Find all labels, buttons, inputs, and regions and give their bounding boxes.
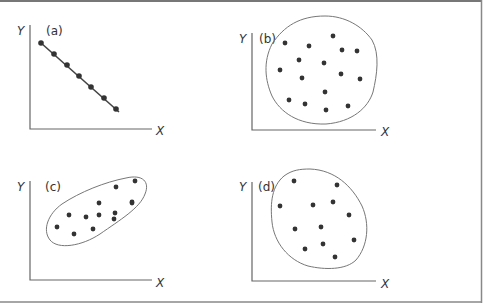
panel-label-b: (b) xyxy=(259,32,276,46)
x-axis-label-b: X xyxy=(380,125,390,139)
data-point xyxy=(297,58,302,63)
data-point xyxy=(113,106,119,112)
data-point xyxy=(303,102,308,107)
x-axis-label-d: X xyxy=(380,277,390,291)
x-axis-label-c: X xyxy=(155,276,165,290)
outline-d xyxy=(271,169,366,268)
panel-b: Y X (b) xyxy=(239,16,390,139)
data-point xyxy=(64,62,70,68)
data-point xyxy=(283,41,288,46)
axes-c xyxy=(30,181,152,280)
y-axis-label-c: Y xyxy=(17,180,26,194)
data-point xyxy=(307,44,312,49)
data-point xyxy=(72,232,77,237)
data-point xyxy=(324,108,329,113)
data-point xyxy=(321,242,326,247)
outline-b xyxy=(266,16,377,124)
outline-c xyxy=(46,177,146,246)
data-point xyxy=(133,179,138,184)
data-point xyxy=(55,225,60,230)
data-point xyxy=(347,213,352,218)
data-point xyxy=(88,84,94,90)
data-point xyxy=(346,104,351,109)
panel-c: Y X (c) xyxy=(17,177,165,290)
panel-d: Y X (d) xyxy=(239,169,390,291)
data-point xyxy=(323,90,328,95)
data-point xyxy=(97,213,102,218)
data-point xyxy=(101,95,107,101)
data-point xyxy=(293,227,298,232)
data-point xyxy=(67,213,72,218)
data-point xyxy=(335,183,340,188)
panel-label-c: (c) xyxy=(45,180,61,194)
panel-label-d: (d) xyxy=(258,180,275,194)
data-point xyxy=(300,76,305,81)
data-point xyxy=(292,179,297,184)
data-point xyxy=(331,34,336,39)
data-point xyxy=(287,98,292,103)
data-point xyxy=(355,49,360,54)
data-point xyxy=(352,238,357,243)
x-axis-label-a: X xyxy=(155,124,165,138)
data-point xyxy=(97,201,102,206)
data-point xyxy=(84,215,89,220)
panel-label-a: (a) xyxy=(46,24,63,38)
data-point xyxy=(319,225,324,230)
data-point xyxy=(76,73,82,79)
data-point xyxy=(38,40,44,46)
data-point xyxy=(339,72,344,77)
data-point xyxy=(278,204,283,209)
data-point xyxy=(130,201,135,206)
y-axis-label-b: Y xyxy=(239,32,248,46)
panel-a: Y X (a) xyxy=(17,24,165,138)
data-point xyxy=(51,51,57,57)
data-point xyxy=(303,247,308,252)
data-point xyxy=(278,68,283,73)
scatter-figure: Y X (a) Y X (b) Y X (c) Y X (d) xyxy=(0,0,492,304)
data-point xyxy=(340,48,345,53)
data-point xyxy=(322,61,327,66)
data-point xyxy=(91,227,96,232)
data-point xyxy=(311,203,316,208)
y-axis-label-d: Y xyxy=(239,180,248,194)
y-axis-label-a: Y xyxy=(17,24,26,38)
axes-a xyxy=(30,25,152,129)
points-d xyxy=(278,179,357,260)
data-point xyxy=(333,255,338,260)
axes-d xyxy=(252,182,376,281)
data-point xyxy=(331,200,336,205)
points-b xyxy=(278,34,363,113)
data-point xyxy=(114,185,119,190)
data-point xyxy=(112,217,117,222)
data-point xyxy=(358,77,363,82)
data-point xyxy=(113,211,118,216)
